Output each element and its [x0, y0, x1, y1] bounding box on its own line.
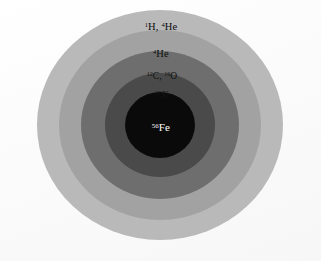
shell-label-56fe: 56Fe [152, 122, 170, 133]
shell-label-1h-4he: 1H, 4He [145, 22, 178, 33]
shell-label-12c-16o: 12C, 16O [147, 72, 178, 82]
shell-label-4he: 4He [153, 49, 169, 60]
shell-stack: 1H, 4He4He12C, 16O28Si56Fe [0, 0, 321, 261]
shell-label-28si: 28Si [155, 91, 169, 101]
stellar-shell-diagram: 1H, 4He4He12C, 16O28Si56Fe [0, 0, 321, 261]
